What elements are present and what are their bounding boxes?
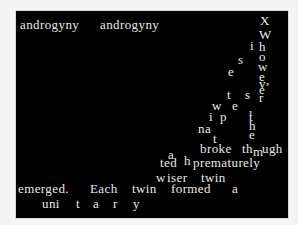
poem-glyph: uni — [42, 197, 60, 210]
poem-glyph: a — [232, 182, 238, 195]
poem-glyph: emerged. — [18, 182, 69, 195]
poem-glyph: t — [76, 197, 80, 210]
poem-glyph: e — [228, 65, 234, 78]
poem-glyph: th — [242, 142, 253, 155]
poem-glyph: p — [220, 110, 227, 123]
poem-glyph: Each — [90, 182, 118, 195]
poem-glyph: e — [232, 99, 238, 112]
poem-glyph: a — [93, 197, 99, 210]
poem-glyph: androgyny — [20, 18, 79, 31]
text-animation-stage: androgynyandrogynyXWihosweev,etsrwe,ipth… — [16, 11, 288, 218]
poem-glyph: i — [250, 39, 254, 52]
poem-glyph: e — [249, 128, 255, 141]
poem-glyph: s — [238, 53, 243, 66]
poem-glyph: broke — [200, 142, 232, 155]
poem-glyph: prematurely — [193, 156, 260, 169]
poem-glyph: w — [156, 171, 166, 184]
poem-glyph: ted — [160, 156, 177, 169]
poem-glyph: ugh — [262, 142, 283, 155]
poem-glyph: r — [259, 91, 264, 104]
poem-glyph: r — [113, 197, 118, 210]
poem-glyph: h — [184, 154, 191, 167]
poem-glyph: na — [198, 122, 211, 135]
poem-glyph: androgyny — [100, 18, 159, 31]
poem-glyph: twin — [132, 182, 157, 195]
poem-glyph: X — [260, 14, 270, 27]
poem-glyph: formed — [171, 182, 211, 195]
poem-glyph: , — [266, 73, 270, 86]
poem-glyph: t — [227, 88, 231, 101]
poem-glyph: y — [133, 197, 140, 210]
